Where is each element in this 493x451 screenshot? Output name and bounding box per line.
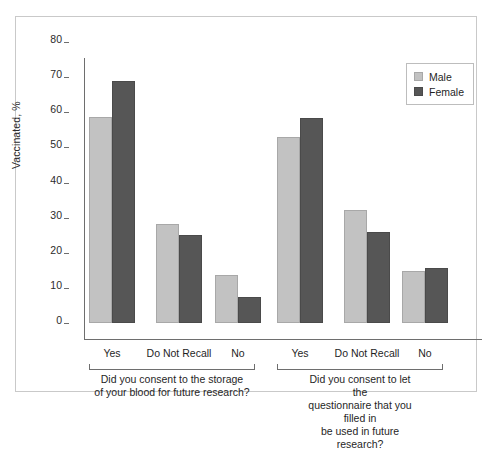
y-tick-mark — [64, 77, 69, 78]
bar-male-0 — [89, 117, 112, 323]
bar-female-3 — [300, 118, 323, 323]
y-tick-label: 0 — [56, 315, 62, 326]
category-label: No — [231, 347, 244, 359]
category-label: Do Not Recall — [335, 347, 400, 359]
category-label: Yes — [291, 347, 308, 359]
legend-item-male: Male — [414, 69, 464, 84]
y-tick-mark — [64, 183, 69, 184]
chart-legend: Male Female — [406, 63, 474, 105]
y-tick-mark — [64, 112, 69, 113]
y-tick-mark — [64, 218, 69, 219]
legend-label-male: Male — [429, 71, 452, 83]
bar-female-0 — [112, 81, 135, 323]
group-caption-line: be used in future research? — [302, 425, 418, 451]
female-swatch-icon — [414, 87, 423, 96]
group-caption-line: Did you consent to the storage — [94, 373, 249, 386]
male-swatch-icon — [414, 72, 423, 81]
y-tick-label: 10 — [50, 280, 62, 291]
y-tick-label: 60 — [50, 104, 62, 115]
group-caption: Did you consent to let thequestionnaire … — [302, 373, 418, 451]
category-label: Do Not Recall — [147, 347, 212, 359]
y-tick-mark — [64, 147, 69, 148]
y-tick-label: 40 — [50, 175, 62, 186]
category-label: Yes — [103, 347, 120, 359]
legend-label-female: Female — [429, 86, 464, 98]
group-bracket — [277, 364, 443, 370]
group-caption: Did you consent to the storageof your bl… — [94, 373, 249, 399]
bar-male-3 — [277, 137, 300, 323]
bar-male-4 — [344, 210, 367, 323]
y-tick-label: 80 — [50, 34, 62, 45]
y-axis-line — [84, 58, 85, 340]
y-tick-label: 20 — [50, 245, 62, 256]
x-axis-line — [84, 339, 482, 340]
bar-female-1 — [179, 235, 202, 323]
group-caption-line: of your blood for future research? — [94, 386, 249, 399]
y-tick-mark — [64, 323, 69, 324]
y-tick-label: 50 — [50, 139, 62, 150]
y-tick-mark — [64, 288, 69, 289]
y-axis-title: Vaccinated, % — [10, 101, 22, 169]
bar-female-4 — [367, 232, 390, 323]
group-caption-line: questionnaire that you filled in — [302, 399, 418, 425]
bar-male-1 — [156, 224, 179, 323]
group-bracket — [89, 364, 255, 370]
bar-male-2 — [215, 275, 238, 323]
y-tick-mark — [64, 253, 69, 254]
figure-frame: Vaccinated, % 01020304050607080 YesDo No… — [15, 16, 477, 392]
category-label: No — [418, 347, 431, 359]
group-caption-line: Did you consent to let the — [302, 373, 418, 399]
bar-female-2 — [238, 297, 261, 323]
bar-female-5 — [425, 268, 448, 323]
y-tick-mark — [64, 42, 69, 43]
y-tick-label: 70 — [50, 69, 62, 80]
bar-male-5 — [402, 271, 425, 323]
legend-item-female: Female — [414, 84, 464, 99]
y-tick-label: 30 — [50, 210, 62, 221]
